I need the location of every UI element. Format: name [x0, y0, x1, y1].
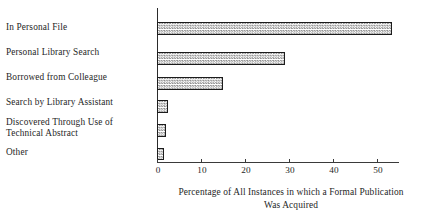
- bar-borrowed-from-colleague: [157, 77, 223, 90]
- plot-area: [157, 8, 425, 162]
- x-tick-label-10: 10: [197, 165, 206, 175]
- x-tick-40: [333, 159, 334, 163]
- x-tick-label-40: 40: [329, 165, 338, 175]
- x-axis-line: [157, 162, 399, 163]
- category-label-personal-library-search: Personal Library Search: [6, 47, 144, 58]
- x-tick-0: [157, 159, 158, 163]
- x-tick-50: [377, 159, 378, 163]
- x-tick-30: [289, 159, 290, 163]
- x-axis-caption-line-1: Percentage of All Instances in which a F…: [150, 186, 432, 199]
- x-tick-10: [201, 159, 202, 163]
- x-tick-20: [245, 159, 246, 163]
- category-label-borrowed-from-colleague: Borrowed from Colleague: [6, 72, 144, 83]
- bar-discovered-technical-abstract: [157, 124, 166, 137]
- x-axis-caption-line-2: Was Acquired: [150, 199, 432, 212]
- x-tick-label-30: 30: [285, 165, 294, 175]
- category-label-in-personal-file: In Personal File: [6, 22, 144, 33]
- category-label-search-by-library-assistant: Search by Library Assistant: [6, 97, 144, 108]
- x-axis: 0 10 20 30 40 50: [157, 162, 425, 184]
- x-tick-label-50: 50: [373, 165, 382, 175]
- bar-chart: In Personal File Personal Library Search…: [0, 0, 432, 219]
- category-label-other: Other: [6, 147, 144, 158]
- x-axis-caption: Percentage of All Instances in which a F…: [150, 186, 432, 211]
- bar-search-by-library-assistant: [157, 100, 168, 113]
- category-label-column: In Personal File Personal Library Search…: [0, 0, 152, 170]
- category-label-discovered-technical-abstract: Discovered Through Use of Technical Abst…: [6, 117, 144, 139]
- x-tick-label-0: 0: [156, 165, 161, 175]
- bar-personal-library-search: [157, 52, 285, 65]
- x-tick-label-20: 20: [241, 165, 250, 175]
- bar-in-personal-file: [157, 22, 392, 35]
